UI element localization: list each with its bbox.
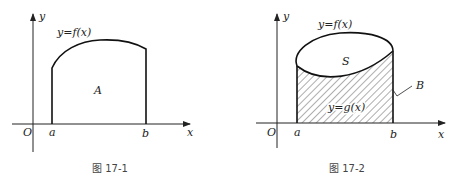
a-label: a [49,126,56,139]
caption: 图 17-2 [329,163,365,174]
region-label: A [93,84,102,97]
curve-label: y=f(x) [56,26,91,39]
caption: 图 17-1 [92,163,128,174]
origin-label: O [23,126,32,139]
b-label: b [390,128,397,141]
top-region-label: S [342,55,350,68]
hatched-region-label: B [415,79,424,92]
region-a-boundary [52,40,146,124]
x-axis-label: x [187,126,194,139]
origin-label: O [267,126,276,139]
y-axis-label: y [38,10,46,23]
b-leader [393,86,412,96]
b-label: b [142,127,149,140]
a-label: a [294,126,301,139]
figure-canvas: y x O a b y=f(x) A 图 17-1 y x O a b y=f(… [0,0,467,186]
upper-curve-label: y=f(x) [317,18,352,31]
lower-curve-label: y=g(x) [327,101,365,114]
figure-17-2: y x O a b y=f(x) y=g(x) S B 图 17-2 [256,10,445,174]
y-axis-label: y [282,10,290,23]
figure-17-1: y x O a b y=f(x) A 图 17-1 [12,10,194,174]
x-axis-label: x [438,128,445,141]
